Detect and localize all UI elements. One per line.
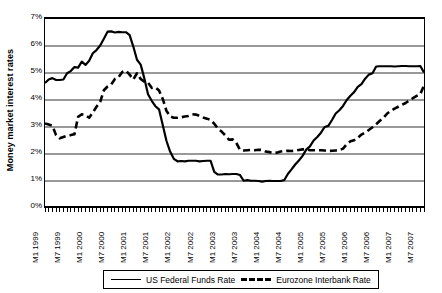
y-axis-tick-label: 1%: [18, 175, 42, 183]
x-axis-tick-label-text: M1 2006: [341, 207, 349, 264]
x-axis-tick-label-text: M1 2005: [297, 207, 305, 264]
x-axis-tick-label-text: M7 2002: [187, 207, 195, 264]
x-axis-tick-label-text: M1 2007: [385, 207, 393, 264]
y-axis-tick-label: 2%: [18, 148, 42, 156]
x-axis-tick-labels: M1 1999M7 1999M1 2000M7 2000M1 2001M7 20…: [44, 210, 425, 266]
x-axis-tick-label-text: M1 1999: [32, 207, 40, 264]
x-axis-tick-label-text: M7 2001: [142, 207, 150, 264]
x-axis-tick-label-text: M7 1999: [54, 207, 62, 264]
x-axis-tick-label-text: M1 2003: [209, 207, 217, 264]
x-axis-tick-label: M7 2007: [415, 210, 442, 266]
legend-swatch-dashed-icon: [241, 278, 271, 281]
x-axis-tick-label-text: M7 2003: [231, 207, 239, 264]
x-axis-tick-label-text: M7 2000: [98, 207, 106, 264]
y-axis-tick-label: 3%: [18, 121, 42, 129]
legend-label: Eurozone Interbank Rate: [276, 275, 371, 285]
x-axis-tick-label-text: M7 2004: [275, 207, 283, 264]
legend-entry: Eurozone Interbank Rate: [241, 275, 371, 285]
series-line: [45, 31, 424, 181]
series-line: [45, 71, 424, 154]
legend-entry: US Federal Funds Rate: [111, 275, 235, 285]
y-axis-tick-label: 4%: [18, 94, 42, 102]
x-axis-tick-label-text: M7 2005: [319, 207, 327, 264]
line-chart: Money market interest rates 7%6%5%4%3%2%…: [0, 0, 442, 293]
x-axis-tick-label-text: M1 2001: [120, 207, 128, 264]
legend-label: US Federal Funds Rate: [146, 275, 235, 285]
x-axis-tick-label-text: M7 2006: [363, 207, 371, 264]
legend-swatch-solid-icon: [111, 279, 141, 280]
x-axis-tick-label-text: M1 2002: [164, 207, 172, 264]
x-axis-tick-label-text: M1 2000: [76, 207, 84, 264]
y-axis-tick-label: 5%: [18, 67, 42, 75]
chart-legend: US Federal Funds RateEurozone Interbank …: [103, 270, 379, 289]
y-axis-tick-label: 6%: [18, 40, 42, 48]
series-canvas: [45, 19, 424, 208]
x-axis-tick-label-text: M7 2007: [407, 207, 415, 264]
plot-area: [44, 17, 425, 208]
x-axis-tick-label-text: M1 2004: [253, 207, 261, 264]
y-axis-tick-label: 7%: [18, 13, 42, 21]
